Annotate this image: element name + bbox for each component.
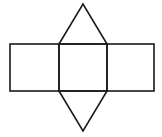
rect-right [107,44,154,91]
prism-net-diagram [0,0,162,137]
rect-left [10,44,59,91]
triangle-bottom [59,91,107,131]
triangle-top [59,4,107,44]
rect-middle [59,44,107,91]
